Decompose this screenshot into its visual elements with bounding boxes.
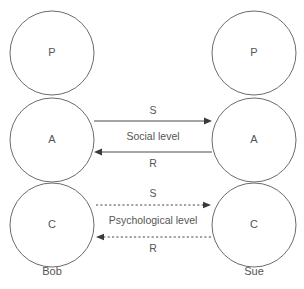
ego-state-label-sue-child: C xyxy=(250,218,258,230)
ego-state-label-bob-child: C xyxy=(48,218,56,230)
person-group-sue: P A C Sue xyxy=(212,11,296,277)
arrow-psychological-response[interactable] xyxy=(96,234,211,240)
arrow-social-response[interactable] xyxy=(94,149,212,156)
ego-state-label-bob-parent: P xyxy=(48,46,55,58)
arrowhead-social-stimulus xyxy=(204,118,212,125)
arrow-social-stimulus[interactable] xyxy=(94,118,212,125)
psychological-level-group: S R Psychological level xyxy=(96,187,211,254)
ego-state-label-sue-adult: A xyxy=(250,133,258,145)
level-label-social: Social level xyxy=(126,130,179,142)
arrow-label-social-stimulus: S xyxy=(149,104,156,116)
arrow-label-social-response: R xyxy=(149,157,157,169)
diagram-canvas: P A C Bob P A C Sue S xyxy=(0,0,304,289)
ego-state-label-bob-adult: A xyxy=(48,133,56,145)
arrowhead-psychological-stimulus xyxy=(203,202,211,208)
ego-state-label-sue-parent: P xyxy=(250,46,257,58)
arrow-psychological-stimulus[interactable] xyxy=(96,202,211,208)
transactional-analysis-diagram: P A C Bob P A C Sue S xyxy=(0,0,304,289)
person-name-bob: Bob xyxy=(42,265,62,277)
social-level-group: S R Social level xyxy=(94,104,212,169)
arrowhead-social-response xyxy=(94,149,102,156)
person-group-bob: P A C Bob xyxy=(10,11,94,277)
arrowhead-psychological-response xyxy=(96,234,104,240)
arrow-label-psychological-response: R xyxy=(149,242,157,254)
level-label-psychological: Psychological level xyxy=(109,214,198,226)
arrow-label-psychological-stimulus: S xyxy=(149,187,156,199)
person-name-sue: Sue xyxy=(244,265,264,277)
